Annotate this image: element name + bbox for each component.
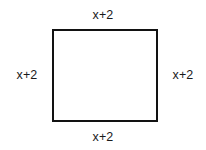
side-label-left: x+2 <box>10 68 44 82</box>
side-label-bottom: x+2 <box>0 130 206 144</box>
geometry-figure: x+2 x+2 x+2 x+2 <box>0 0 206 150</box>
square-shape <box>52 29 158 122</box>
side-label-top: x+2 <box>0 8 206 22</box>
side-label-right: x+2 <box>166 68 200 82</box>
